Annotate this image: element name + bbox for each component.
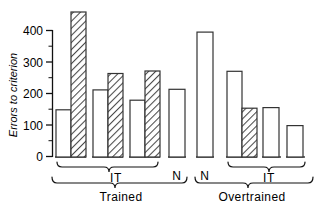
y-tick-label-0: 0 <box>36 150 43 164</box>
label-n-left: N <box>172 169 181 183</box>
bars <box>56 12 303 157</box>
bar-overtrained-it-3-open <box>287 126 303 157</box>
bar-overtrained-it-2-open <box>263 108 279 157</box>
bar-trained-it-1-open <box>56 110 71 157</box>
bar-trained-it-2-open <box>93 90 108 157</box>
label-n-right: N <box>200 169 209 183</box>
chart-canvas: 400 300 200 100 0 Errors to criterion <box>0 0 317 210</box>
bar-trained-n-open <box>169 89 185 157</box>
y-tick-label-100: 100 <box>23 119 43 133</box>
y-tick-label-400: 400 <box>23 24 43 38</box>
bar-trained-it-3-open <box>130 100 145 157</box>
bar-overtrained-it-1-open <box>227 71 242 157</box>
y-axis: 400 300 200 100 0 Errors to criterion <box>7 24 53 164</box>
label-overtrained: Overtrained <box>218 190 285 204</box>
bar-chart: 400 300 200 100 0 Errors to criterion <box>0 0 317 210</box>
bar-trained-it-1-hatched <box>71 12 86 157</box>
label-trained: Trained <box>99 190 142 204</box>
y-tick-label-200: 200 <box>23 87 43 101</box>
bracket-overtrained <box>195 177 313 188</box>
y-axis-label: Errors to criterion <box>7 53 19 137</box>
bar-overtrained-it-1-hatched <box>242 108 257 157</box>
bar-trained-it-3-hatched <box>145 71 160 157</box>
bracket-it-left <box>57 162 158 172</box>
condition-labels: Trained Overtrained <box>99 190 285 204</box>
bar-overtrained-n-open <box>197 32 213 157</box>
bar-trained-it-2-hatched <box>108 74 123 158</box>
y-tick-label-300: 300 <box>23 56 43 70</box>
